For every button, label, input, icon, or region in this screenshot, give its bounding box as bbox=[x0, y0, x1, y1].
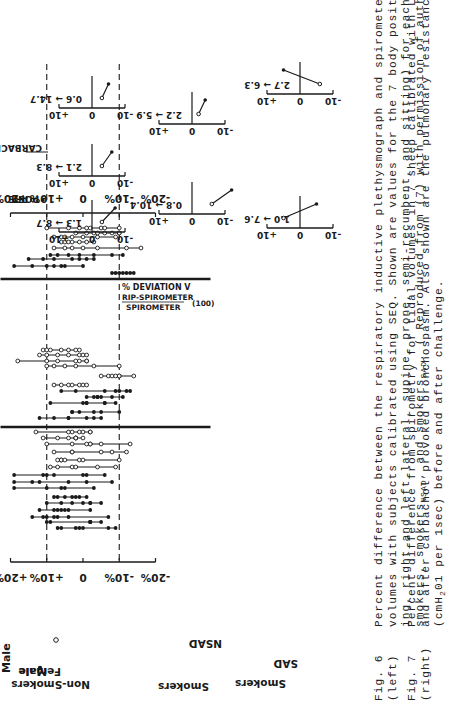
tick-label-plus10: +10 bbox=[49, 178, 69, 188]
fig7-caption: Fig. 7 (right) Percent difference from s… bbox=[396, 1, 440, 701]
pre-marker bbox=[318, 82, 322, 86]
tick-label-minus10: -10 bbox=[117, 110, 133, 120]
pre-marker bbox=[100, 220, 104, 224]
resistance-label: 0.6 → 14.7 bbox=[30, 94, 82, 104]
legend-male-label: Male bbox=[0, 643, 13, 673]
post-marker bbox=[113, 206, 117, 210]
pre-marker bbox=[210, 202, 214, 206]
tick-label-minus10: -10 bbox=[217, 216, 233, 226]
post-marker bbox=[230, 188, 234, 192]
tick-label-zero: 0 bbox=[189, 126, 195, 136]
fig7-panel: +100-101.3 → 8.7 bbox=[36, 200, 133, 244]
post-marker bbox=[282, 68, 286, 72]
tick-label-zero: 0 bbox=[89, 110, 95, 120]
fig7-panel: +100-102.7 → 6.3 bbox=[244, 62, 341, 106]
fig7-panel: +100-101.0 → 7.6 bbox=[244, 196, 341, 240]
fig7-ylabel: % DEVIATION VRIP-SPIROMETERSPIROMETER(10… bbox=[122, 283, 215, 312]
resistance-label: 2.7 → 6.3 bbox=[244, 80, 290, 90]
post-marker bbox=[203, 98, 207, 102]
fig7-panel: +100-100.8 → 10.4 bbox=[130, 182, 233, 226]
tick-label-zero: 0 bbox=[297, 230, 303, 240]
legend-condition-label: CARBACHOL bbox=[0, 143, 42, 153]
ylabel-factor: (100) bbox=[192, 299, 215, 308]
resistance-label: 0.8 → 10.4 bbox=[130, 200, 182, 210]
pre-marker bbox=[100, 164, 104, 168]
fig7-panel: +100-102.2 → 5.9 bbox=[136, 92, 233, 136]
tick-label-minus10: -10 bbox=[117, 178, 133, 188]
tick-label-zero: 0 bbox=[89, 178, 95, 188]
legend-male: Male bbox=[0, 603, 14, 673]
tick-label-zero: 0 bbox=[189, 216, 195, 226]
pre-marker bbox=[100, 96, 104, 100]
pre-post-line bbox=[199, 100, 206, 114]
resistance-label: 2.2 → 5.9 bbox=[136, 110, 182, 120]
pre-post-line bbox=[212, 190, 232, 204]
tick-label-plus10: +10 bbox=[149, 216, 169, 226]
tick-label-minus10: -10 bbox=[217, 126, 233, 136]
tick-label-minus10: -10 bbox=[325, 230, 341, 240]
ylabel-text: % DEVIATION V bbox=[122, 283, 191, 292]
resistance-label: 1.0 → 7.6 bbox=[244, 214, 290, 224]
tick-label-minus10: -10 bbox=[325, 96, 341, 106]
post-marker bbox=[110, 150, 114, 154]
tick-label-plus10: +10 bbox=[257, 96, 277, 106]
tick-label-plus10: +10 bbox=[49, 110, 69, 120]
pre-marker bbox=[197, 112, 201, 116]
post-marker bbox=[315, 202, 319, 206]
resistance-label: 1.3 → 8.7 bbox=[36, 218, 82, 228]
tick-label-zero: 0 bbox=[89, 234, 95, 244]
pre-post-line bbox=[102, 208, 115, 222]
resistance-label: 2.1 → 8.3 bbox=[36, 162, 82, 172]
fig7-panel: +100-100.6 → 14.7 bbox=[30, 76, 133, 120]
pre-post-line bbox=[102, 84, 109, 98]
fig7-caption-label: Fig. 7 (right) bbox=[406, 647, 433, 701]
tick-label-plus10: +10 bbox=[257, 230, 277, 240]
tick-label-plus10: +10 bbox=[149, 126, 169, 136]
tick-label-plus10: +10 bbox=[49, 234, 69, 244]
ylabel-denominator: SPIROMETER bbox=[126, 303, 181, 312]
tick-label-minus10: -10 bbox=[117, 234, 133, 244]
tick-label-zero: 0 bbox=[297, 96, 303, 106]
fig7-legend: - PRE- POSTCARBACHOL bbox=[0, 143, 48, 204]
fig7-panel: +100-102.1 → 8.3 bbox=[36, 144, 133, 188]
legend-post-label: - POST bbox=[11, 194, 46, 204]
post-marker bbox=[107, 82, 111, 86]
fig7-caption-text: Percent difference from spirometry for t… bbox=[406, 0, 450, 627]
ylabel-numerator: RIP-SPIROMETER bbox=[122, 293, 194, 302]
pre-post-line bbox=[102, 152, 112, 166]
